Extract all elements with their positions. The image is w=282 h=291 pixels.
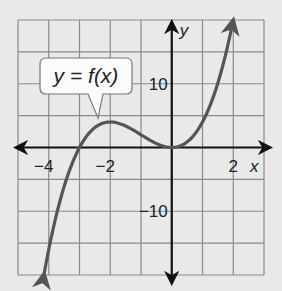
function-callout: y = f(x) bbox=[40, 58, 132, 118]
x-tick-label: −2 bbox=[96, 157, 115, 176]
function-graph: −4−2210−10 x y y = f(x) bbox=[0, 0, 282, 291]
x-tick-label: 2 bbox=[229, 157, 238, 176]
y-axis-label: y bbox=[179, 21, 190, 40]
y-tick-label: 10 bbox=[149, 75, 168, 94]
x-tick-label: −4 bbox=[34, 157, 53, 176]
x-axis-label: x bbox=[249, 157, 259, 176]
y-tick-label: −10 bbox=[139, 202, 168, 221]
callout-label: y = f(x) bbox=[52, 64, 119, 87]
